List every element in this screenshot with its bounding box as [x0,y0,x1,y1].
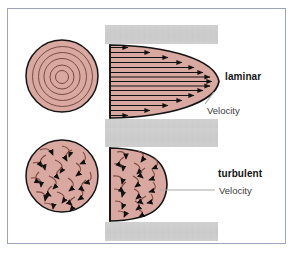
label-velocity-turbulent: Velocity [219,185,252,196]
label-turbulent: turbulent [218,168,262,179]
laminar-velocity-profile [110,44,219,119]
laminar-top-wall [105,25,218,44]
diagram-canvas [0,0,295,254]
label-velocity-laminar: Velocity [207,105,240,116]
label-laminar: laminar [225,71,261,82]
turbulent-cross-section [26,140,98,212]
laminar-velocity-arrows [110,48,212,116]
turbulent-bottom-wall [105,222,218,241]
turbulent-velocity-profile [110,147,167,222]
fluid-flow-diagram: laminar turbulent Velocity Velocity [0,0,295,254]
laminar-cross-section [26,40,98,112]
turbulent-top-wall [105,128,218,147]
